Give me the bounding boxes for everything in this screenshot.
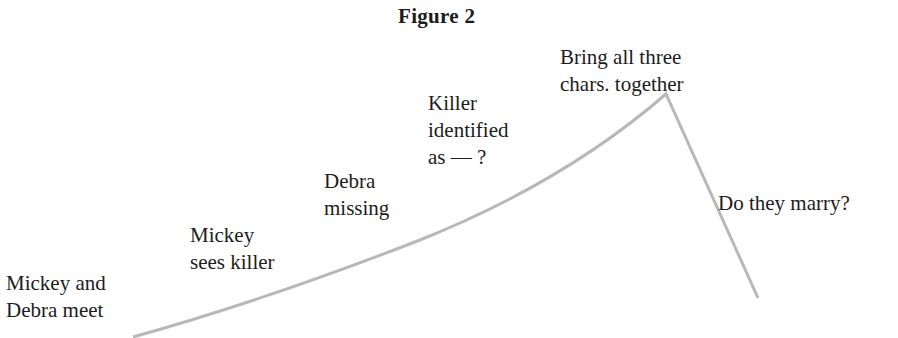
label-line: Mickey	[190, 222, 275, 249]
label-line: sees killer	[190, 249, 275, 276]
label-do-they-marry: Do they marry?	[718, 190, 850, 217]
label-debra-missing: Debra missing	[324, 168, 389, 222]
label-line: Debra	[324, 168, 389, 195]
label-killer-identified: Killer identified as — ?	[428, 90, 508, 171]
label-line: Killer	[428, 90, 508, 117]
label-line: Bring all three	[560, 44, 684, 71]
label-line: missing	[324, 195, 389, 222]
label-line: Debra meet	[6, 297, 106, 324]
label-mickey-sees-killer: Mickey sees killer	[190, 222, 275, 276]
label-line: as — ?	[428, 144, 508, 171]
label-bring-together: Bring all three chars. together	[560, 44, 684, 98]
label-line: Do they marry?	[718, 190, 850, 217]
label-line: chars. together	[560, 71, 684, 98]
label-line: identified	[428, 117, 508, 144]
label-line: Mickey and	[6, 270, 106, 297]
label-mickey-debra-meet: Mickey and Debra meet	[6, 270, 106, 324]
